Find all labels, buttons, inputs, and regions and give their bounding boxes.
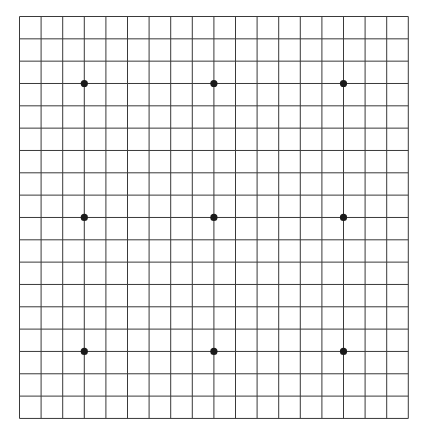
board-intersection[interactable] [356, 141, 374, 159]
go-board[interactable] [0, 0, 428, 437]
board-intersection[interactable] [140, 119, 158, 137]
board-intersection[interactable] [378, 320, 396, 338]
board-intersection[interactable] [227, 119, 245, 137]
board-intersection[interactable] [399, 387, 417, 405]
board-intersection[interactable] [140, 52, 158, 70]
board-intersection[interactable] [162, 74, 180, 92]
board-intersection[interactable] [356, 253, 374, 271]
board-intersection[interactable] [75, 298, 93, 316]
board-intersection[interactable] [227, 253, 245, 271]
board-intersection[interactable] [119, 253, 137, 271]
board-intersection[interactable] [227, 298, 245, 316]
board-intersection[interactable] [335, 119, 353, 137]
board-intersection[interactable] [335, 8, 353, 26]
board-intersection[interactable] [205, 387, 223, 405]
board-intersection[interactable] [313, 52, 331, 70]
board-intersection[interactable] [183, 74, 201, 92]
board-intersection[interactable] [291, 409, 309, 427]
board-intersection[interactable] [248, 119, 266, 137]
board-intersection[interactable] [313, 275, 331, 293]
board-intersection[interactable] [313, 298, 331, 316]
board-intersection[interactable] [378, 8, 396, 26]
board-intersection[interactable] [11, 164, 29, 182]
board-intersection[interactable] [378, 231, 396, 249]
board-intersection[interactable] [313, 30, 331, 48]
board-intersection[interactable] [291, 231, 309, 249]
board-intersection[interactable] [270, 320, 288, 338]
board-intersection[interactable] [54, 298, 72, 316]
board-intersection[interactable] [119, 409, 137, 427]
board-intersection[interactable] [97, 164, 115, 182]
board-intersection[interactable] [162, 387, 180, 405]
board-intersection[interactable] [399, 275, 417, 293]
board-intersection[interactable] [119, 298, 137, 316]
board-intersection[interactable] [32, 409, 50, 427]
board-intersection[interactable] [11, 298, 29, 316]
board-intersection[interactable] [291, 365, 309, 383]
board-intersection[interactable] [356, 97, 374, 115]
board-intersection[interactable] [119, 208, 137, 226]
board-intersection[interactable] [11, 74, 29, 92]
board-intersection[interactable] [119, 52, 137, 70]
board-intersection[interactable] [162, 164, 180, 182]
board-intersection[interactable] [75, 409, 93, 427]
board-intersection[interactable] [32, 8, 50, 26]
board-intersection[interactable] [356, 342, 374, 360]
board-intersection[interactable] [11, 52, 29, 70]
board-intersection[interactable] [313, 409, 331, 427]
board-intersection[interactable] [75, 253, 93, 271]
board-intersection[interactable] [54, 320, 72, 338]
board-intersection[interactable] [54, 275, 72, 293]
board-intersection[interactable] [270, 231, 288, 249]
board-intersection[interactable] [162, 141, 180, 159]
board-intersection[interactable] [54, 253, 72, 271]
board-intersection[interactable] [11, 342, 29, 360]
board-intersection[interactable] [140, 409, 158, 427]
board-intersection[interactable] [248, 409, 266, 427]
board-intersection[interactable] [140, 97, 158, 115]
board-intersection[interactable] [54, 342, 72, 360]
board-intersection[interactable] [335, 208, 353, 226]
board-intersection[interactable] [162, 208, 180, 226]
board-intersection[interactable] [291, 320, 309, 338]
board-intersection[interactable] [183, 8, 201, 26]
board-intersection[interactable] [119, 8, 137, 26]
board-intersection[interactable] [54, 30, 72, 48]
board-intersection[interactable] [183, 186, 201, 204]
board-intersection[interactable] [205, 97, 223, 115]
board-intersection[interactable] [227, 320, 245, 338]
board-intersection[interactable] [291, 298, 309, 316]
board-intersection[interactable] [140, 387, 158, 405]
board-intersection[interactable] [227, 186, 245, 204]
board-intersection[interactable] [97, 208, 115, 226]
board-intersection[interactable] [335, 141, 353, 159]
board-intersection[interactable] [399, 409, 417, 427]
board-intersection[interactable] [378, 141, 396, 159]
board-intersection[interactable] [356, 30, 374, 48]
board-intersection[interactable] [313, 253, 331, 271]
board-intersection[interactable] [11, 141, 29, 159]
board-intersection[interactable] [205, 30, 223, 48]
board-intersection[interactable] [313, 97, 331, 115]
board-intersection[interactable] [335, 253, 353, 271]
board-intersection[interactable] [97, 141, 115, 159]
board-intersection[interactable] [54, 164, 72, 182]
board-intersection[interactable] [356, 8, 374, 26]
board-intersection[interactable] [11, 253, 29, 271]
board-intersection[interactable] [356, 186, 374, 204]
board-intersection[interactable] [291, 30, 309, 48]
board-intersection[interactable] [75, 186, 93, 204]
board-intersection[interactable] [75, 52, 93, 70]
board-intersection[interactable] [75, 164, 93, 182]
board-intersection[interactable] [140, 30, 158, 48]
board-intersection[interactable] [97, 231, 115, 249]
board-intersection[interactable] [11, 365, 29, 383]
board-intersection[interactable] [32, 164, 50, 182]
board-intersection[interactable] [97, 298, 115, 316]
board-intersection[interactable] [183, 365, 201, 383]
board-intersection[interactable] [11, 97, 29, 115]
board-intersection[interactable] [97, 8, 115, 26]
board-intersection[interactable] [54, 409, 72, 427]
board-intersection[interactable] [205, 52, 223, 70]
board-intersection[interactable] [32, 186, 50, 204]
